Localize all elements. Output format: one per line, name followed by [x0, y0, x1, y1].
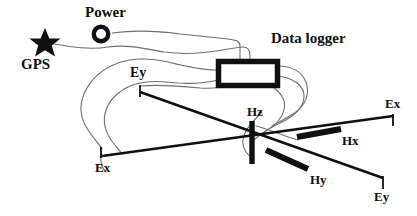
- diagram-canvas: [0, 0, 417, 216]
- label-ex-bottom-left: Ex: [95, 161, 110, 174]
- hx-coil-bar: [297, 129, 341, 137]
- station-layout-diagram: Power GPS Data logger Ey Ex Hz Hx Ex Hy …: [0, 0, 417, 216]
- label-ey-bottom-right: Ey: [374, 190, 389, 203]
- label-power: Power: [85, 5, 126, 20]
- label-ey-top-left: Ey: [130, 66, 146, 80]
- label-hy: Hy: [310, 173, 327, 186]
- gps-star-icon: [29, 28, 60, 57]
- label-hz: Hz: [247, 105, 263, 118]
- cable-gps-to-logger: [54, 44, 250, 60]
- label-data-logger: Data logger: [271, 31, 346, 46]
- cable-logger-loop-left: [81, 59, 216, 149]
- power-ring-icon: [94, 27, 108, 41]
- data-logger-box: [219, 62, 278, 86]
- label-ex-right: Ex: [385, 97, 400, 110]
- cable-power-to-logger: [112, 31, 240, 60]
- label-hx: Hx: [342, 134, 359, 147]
- label-gps: GPS: [21, 57, 50, 72]
- hy-coil-bar: [266, 150, 308, 169]
